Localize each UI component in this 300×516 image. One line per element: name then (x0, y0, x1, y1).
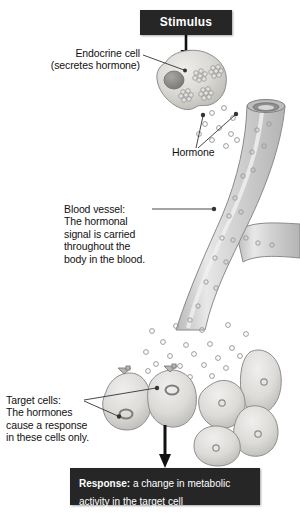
response-text: Response: a change in metabolic activity… (79, 478, 230, 507)
label-endocrine-cell: Endocrine cell (secretes hormone) (10, 47, 140, 72)
response-lead: Response: (79, 478, 130, 489)
stimulus-label: Stimulus (160, 16, 212, 30)
diagram-canvas: Endocrine cell (secretes hormone) Hormon… (0, 0, 300, 516)
hormone-particles-top (197, 106, 240, 149)
stimulus-box: Stimulus (140, 10, 232, 35)
blood-vessel (176, 100, 300, 331)
nontarget-cells (194, 350, 281, 466)
response-box: Response: a change in metabolic activity… (70, 468, 260, 505)
hormone-particles-bottom (144, 323, 249, 380)
label-blood-vessel: Blood vessel: The hormonal signal is car… (64, 203, 184, 265)
nucleus (164, 71, 184, 89)
label-target-cells: Target cells: The hormones cause a respo… (6, 394, 126, 444)
label-hormone: Hormone (172, 146, 215, 158)
endocrine-cell (157, 50, 227, 109)
response-arrow (159, 425, 171, 468)
